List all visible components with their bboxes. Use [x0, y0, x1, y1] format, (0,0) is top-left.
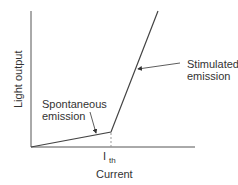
threshold-label: Ith: [103, 150, 116, 164]
y-axis-label: Light output: [12, 51, 24, 109]
diagram-canvas: [0, 0, 238, 185]
x-axis-label: Current: [96, 168, 133, 180]
spontaneous-label: Spontaneous emission: [42, 98, 107, 122]
stimulated-arrow: [138, 63, 180, 69]
stimulated-label: Stimulated emission: [187, 58, 238, 82]
